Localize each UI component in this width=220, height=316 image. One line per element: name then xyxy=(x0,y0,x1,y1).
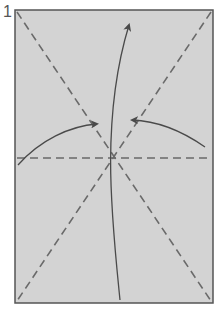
origami-diagram: 1 xyxy=(0,0,220,316)
diagram-canvas xyxy=(0,0,220,316)
